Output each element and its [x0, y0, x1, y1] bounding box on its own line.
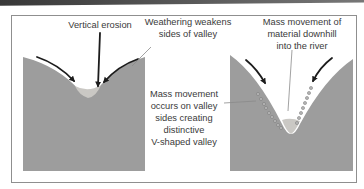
debris-dot	[264, 106, 267, 109]
debris-dot	[307, 91, 310, 94]
debris-dot	[279, 126, 282, 129]
mass-valley-label-line3: sides creating	[155, 113, 212, 123]
mass-downhill-label-line2: material downhill	[267, 29, 336, 39]
debris-dot	[259, 97, 262, 100]
debris-dot	[262, 102, 265, 105]
valley-formation-diagram: Vertical erosion Weathering weakens side…	[0, 0, 364, 189]
weathering-label-line1: Weathering weakens	[145, 17, 232, 27]
mass-valley-label-line5: V-shaped valley	[151, 137, 217, 147]
debris-dot	[299, 111, 302, 114]
debris-dot	[295, 121, 298, 124]
mass-downhill-label-line1: Mass movement of	[263, 17, 342, 27]
debris-dot	[276, 123, 279, 126]
mass-downhill-label-line3: into the river	[276, 41, 327, 51]
debris-dot	[273, 119, 276, 122]
debris-dot	[303, 101, 306, 104]
mass-valley-label-line2: occurs on valley	[151, 101, 218, 111]
debris-dot	[267, 111, 270, 114]
page-edge-band	[0, 0, 364, 6]
mass-valley-label-line1: Mass movement	[150, 89, 219, 99]
debris-dot	[256, 92, 259, 95]
debris-dot	[309, 86, 312, 89]
weathering-label-line2: sides of valley	[159, 29, 218, 39]
mass-valley-label-line4: distinctive	[164, 125, 205, 135]
vertical-erosion-label: Vertical erosion	[68, 20, 132, 30]
debris-dot	[301, 106, 304, 109]
debris-dot	[270, 115, 273, 118]
debris-dot	[305, 96, 308, 99]
debris-dot	[297, 116, 300, 119]
valley-formation-figure: Vertical erosion Weathering weakens side…	[0, 0, 364, 189]
